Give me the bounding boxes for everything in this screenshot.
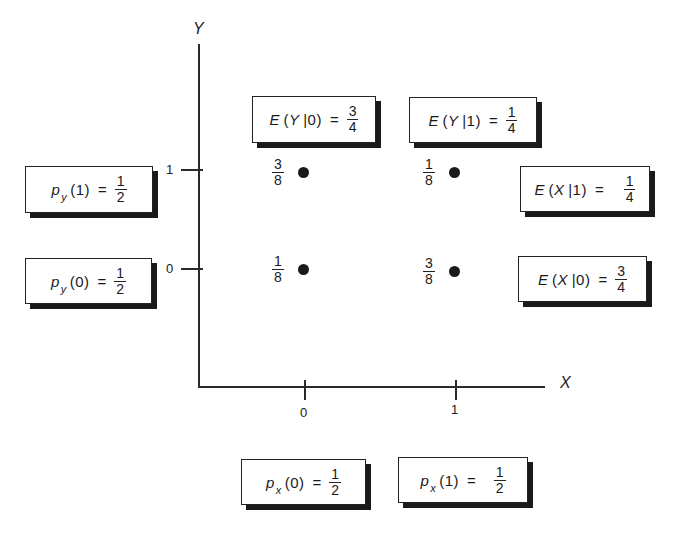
point-1-0: 38 bbox=[423, 256, 460, 287]
y-axis-label: Y bbox=[193, 20, 204, 38]
point-prob: 18 bbox=[423, 157, 435, 188]
box-e-y-given-1: E (Y |1) = 14 bbox=[409, 97, 537, 143]
point-prob: 18 bbox=[272, 254, 284, 285]
point-prob: 38 bbox=[272, 157, 284, 188]
x-tick-label-1: 1 bbox=[451, 402, 458, 417]
point-dot bbox=[449, 167, 460, 178]
point-dot bbox=[298, 167, 309, 178]
x-tick-label-0: 0 bbox=[300, 405, 307, 420]
box-p-x-1: px(1) = 12 bbox=[398, 457, 528, 503]
point-dot bbox=[449, 266, 460, 277]
point-0-1: 38 bbox=[272, 157, 309, 188]
box-p-x-0: px(0) = 12 bbox=[241, 459, 366, 505]
point-dot bbox=[298, 264, 309, 275]
box-e-y-given-0: E (Y |0) = 34 bbox=[252, 96, 376, 143]
x-tick-0 bbox=[304, 380, 306, 400]
box-e-x-given-0: E (X |0) = 34 bbox=[518, 256, 647, 302]
y-tick-label-1: 1 bbox=[166, 162, 173, 177]
box-p-y-1: py(1) = 12 bbox=[25, 166, 153, 213]
point-0-0: 18 bbox=[272, 254, 309, 285]
x-tick-1 bbox=[455, 380, 457, 400]
box-e-x-given-1: E (X |1) = 14 bbox=[520, 166, 650, 212]
y-tick-label-0: 0 bbox=[166, 261, 173, 276]
x-axis-label: X bbox=[560, 374, 571, 392]
box-p-y-0: py(0) = 12 bbox=[25, 258, 152, 304]
x-axis bbox=[198, 386, 545, 388]
point-prob: 38 bbox=[423, 256, 435, 287]
y-tick-0 bbox=[181, 268, 203, 270]
point-1-1: 18 bbox=[423, 157, 460, 188]
y-axis bbox=[198, 44, 200, 388]
y-tick-1 bbox=[181, 169, 203, 171]
